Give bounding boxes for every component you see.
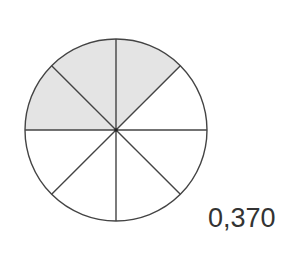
value-label: 0,370 xyxy=(208,205,276,232)
center-point xyxy=(114,128,118,132)
